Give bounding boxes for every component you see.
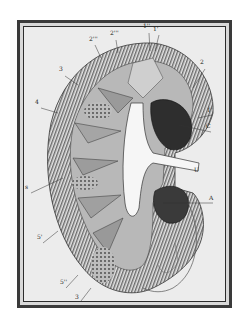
label-3-top: 3 — [59, 66, 63, 72]
label-4: 4 — [35, 99, 39, 105]
label-1-double-prime: 1'' — [143, 23, 150, 29]
label-2-triple-prime: 2''' — [110, 30, 119, 36]
label-s: s — [25, 184, 28, 190]
label-2: 2 — [200, 59, 204, 65]
label-C: C — [206, 123, 211, 129]
label-5-double-prime: 5'' — [60, 279, 67, 285]
label-A: A — [209, 195, 213, 201]
illustration-area — [23, 26, 226, 302]
label-U: U — [194, 167, 199, 173]
kidney-illustration — [24, 27, 226, 302]
label-2-triple-prime-b: 2''' — [89, 36, 98, 42]
label-3-bottom: 3 — [75, 294, 79, 300]
label-5-prime: 5' — [37, 234, 42, 240]
label-1-prime: 1' — [153, 26, 158, 32]
label-1-prime-right: 1' — [207, 107, 212, 113]
